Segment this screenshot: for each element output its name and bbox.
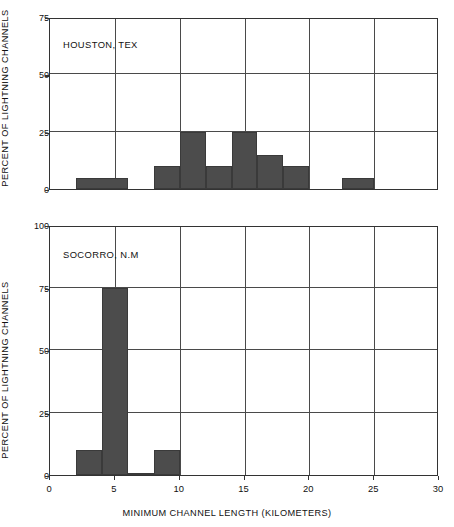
x-axis-tick-label: 0 xyxy=(46,483,51,494)
histogram-bar xyxy=(180,132,206,189)
histogram-bar xyxy=(342,178,374,189)
y-axis-tick-mark xyxy=(45,226,49,227)
chart-panel-houston: PERCENT OF LIGHTNING CHANNELS 0255075 HO… xyxy=(0,0,454,212)
bar-series-socorro xyxy=(50,227,437,475)
y-axis-tick-mark xyxy=(45,351,49,352)
y-axis-tick-mark xyxy=(45,75,49,76)
x-axis-tick-mark xyxy=(179,476,180,480)
x-axis-tick-label: 25 xyxy=(368,483,378,494)
annotation-houston: HOUSTON, TEX xyxy=(63,39,138,50)
plot-area-socorro xyxy=(49,226,438,476)
y-axis-tick-mark xyxy=(45,133,49,134)
x-axis-tick-label: 15 xyxy=(238,483,248,494)
histogram-bar xyxy=(232,132,258,189)
x-axis-tick-mark xyxy=(438,476,439,480)
histogram-bar xyxy=(257,155,283,189)
histogram-bar xyxy=(76,450,102,475)
x-axis-tick-label: 10 xyxy=(173,483,183,494)
x-axis-tick-mark xyxy=(114,476,115,480)
histogram-bar xyxy=(154,166,180,189)
x-axis-tick-label: 5 xyxy=(111,483,116,494)
x-axis-tick-mark xyxy=(373,476,374,480)
y-axis-title-houston: PERCENT OF LIGHTNING CHANNELS xyxy=(0,0,10,198)
histogram-bar xyxy=(283,166,309,189)
histogram-bar xyxy=(102,288,128,476)
y-axis-tick-mark xyxy=(45,289,49,290)
histogram-bar xyxy=(206,166,232,189)
y-axis-tick-mark xyxy=(45,18,49,19)
histogram-bar xyxy=(154,450,180,475)
x-axis-tick-label: 20 xyxy=(303,483,313,494)
x-axis-tick-label: 30 xyxy=(433,483,443,494)
x-axis-tick-mark xyxy=(49,476,50,480)
x-axis-tick-mark xyxy=(244,476,245,480)
histogram-bar xyxy=(76,178,128,189)
histogram-bar xyxy=(128,473,154,476)
y-axis-tick-mark xyxy=(45,414,49,415)
annotation-socorro: SOCORRO, N.M xyxy=(63,249,139,260)
x-axis-tick-mark xyxy=(308,476,309,480)
x-axis-title: MINIMUM CHANNEL LENGTH (KILOMETERS) xyxy=(0,508,454,518)
y-axis-tick-mark xyxy=(45,190,49,191)
y-axis-title-socorro: PERCENT OF LIGHTNING CHANNELS xyxy=(0,270,10,470)
